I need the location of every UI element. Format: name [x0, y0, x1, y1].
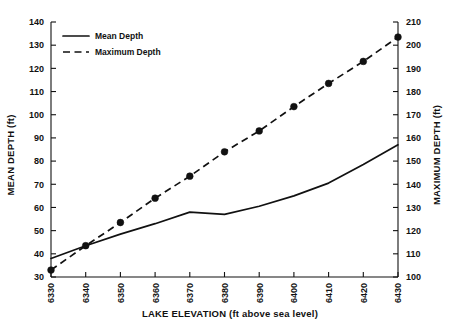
data-point-marker	[82, 242, 89, 249]
y-axis-left-tick-label: 80	[34, 156, 44, 166]
data-point-marker	[48, 267, 55, 274]
y-axis-left-tick-label: 110	[29, 87, 44, 97]
data-point-marker	[186, 173, 193, 180]
y-axis-right-tick-label: 160	[406, 133, 421, 143]
y-axis-left-tick-label: 140	[29, 17, 44, 27]
y-axis-left-tick-label: 100	[29, 110, 44, 120]
data-point-marker	[256, 128, 263, 135]
y-axis-right-tick-label: 200	[406, 40, 421, 50]
legend-label-maximum-depth: Maximum Depth	[95, 47, 161, 57]
y-axis-left-tick-label: 120	[29, 64, 44, 74]
x-axis-tick-label: 6350	[116, 283, 126, 303]
y-axis-right-title: MAXIMUM DEPTH (ft)	[431, 105, 442, 205]
x-axis-tick-label: 6370	[185, 283, 195, 303]
data-point-marker	[291, 103, 298, 110]
y-axis-right-ticks: 100110120130140150160170180190200210	[393, 17, 421, 282]
x-axis-tick-label: 6430	[393, 283, 403, 303]
y-axis-left-tick-label: 40	[34, 249, 44, 259]
y-axis-right-tick-label: 180	[406, 87, 421, 97]
chart-legend: Mean DepthMaximum Depth	[63, 31, 161, 57]
data-point-marker	[360, 58, 367, 65]
y-axis-left-title: MEAN DEPTH (ft)	[5, 114, 16, 195]
y-axis-right-tick-label: 120	[406, 226, 421, 236]
series-line-mean-depth	[51, 145, 398, 259]
y-axis-left-ticks: 30405060708090100110120130140	[29, 17, 56, 282]
y-axis-right-tick-label: 150	[406, 156, 421, 166]
data-point-marker	[221, 148, 228, 155]
data-point-marker	[395, 34, 402, 41]
y-axis-left-tick-label: 30	[34, 272, 44, 282]
x-axis-tick-label: 6340	[81, 283, 91, 303]
y-axis-right-tick-label: 100	[406, 272, 421, 282]
y-axis-right-tick-label: 190	[406, 64, 421, 74]
y-axis-right-tick-label: 140	[406, 180, 421, 190]
depth-vs-lake-elevation-chart: 30405060708090100110120130140 1001101201…	[0, 0, 450, 326]
y-axis-left-tick-label: 130	[29, 40, 44, 50]
x-axis-tick-label: 6330	[46, 283, 56, 303]
data-point-marker	[117, 219, 124, 226]
x-axis-title: LAKE ELEVATION (ft above sea level)	[142, 308, 318, 319]
x-axis-tick-label: 6420	[359, 283, 369, 303]
y-axis-right-tick-label: 130	[406, 203, 421, 213]
legend-label-mean-depth: Mean Depth	[95, 31, 143, 41]
y-axis-right-tick-label: 210	[406, 17, 421, 27]
x-axis-tick-label: 6410	[324, 283, 334, 303]
data-series-layer	[48, 34, 402, 274]
chart-container: 30405060708090100110120130140 1001101201…	[0, 0, 450, 326]
data-point-marker	[325, 80, 332, 87]
y-axis-left-tick-label: 90	[34, 133, 44, 143]
y-axis-left-tick-label: 50	[34, 226, 44, 236]
y-axis-left-tick-label: 70	[34, 180, 44, 190]
y-axis-right-tick-label: 110	[406, 249, 421, 259]
x-axis-tick-label: 6360	[151, 283, 161, 303]
x-axis-tick-label: 6390	[255, 283, 265, 303]
data-point-marker	[152, 195, 159, 202]
x-axis-tick-label: 6380	[220, 283, 230, 303]
y-axis-right-tick-label: 170	[406, 110, 421, 120]
y-axis-left-tick-label: 60	[34, 203, 44, 213]
x-axis-tick-label: 6400	[289, 283, 299, 303]
